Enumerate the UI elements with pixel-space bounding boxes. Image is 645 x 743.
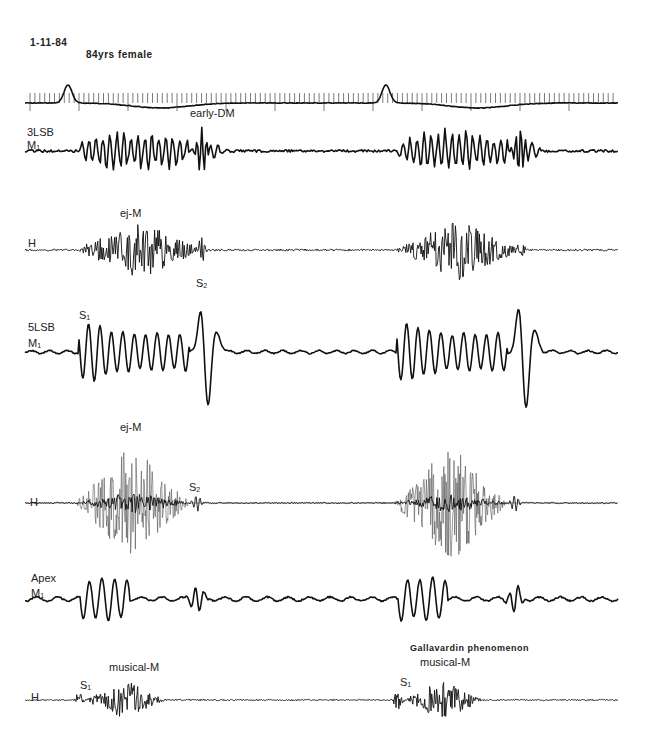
ecg-time-markers [30,93,613,111]
s-subscript: 2 [196,486,200,493]
phonocardiogram-traces [0,0,645,743]
annotation-musical-m-1: musical-M [109,662,159,673]
patient-info: 84yrs female [86,50,153,60]
5lsb-h-trace-baseline [25,494,618,513]
lead-label-3lsb-m: M1 [27,140,40,151]
channel-label-apex: Apex [31,573,56,584]
5lsb-h-trace [25,452,618,556]
lead-label-5lsb-h: H [30,497,38,508]
5lsb-m-trace [25,310,618,407]
annotation-s2-a: S2 [196,278,207,289]
lead-label-apex-m: M1 [31,588,44,599]
s-subscript: 1 [87,684,91,691]
lead-subscript: 1 [40,592,44,599]
annotation-s1-5lsb: S1 [79,310,90,321]
lead-label-5lsb-m: M1 [28,338,41,349]
s-subscript: 2 [203,282,207,289]
annotation-s1-h-2: S1 [400,677,411,688]
s-subscript: 1 [86,314,90,321]
lead-text: M [28,337,37,349]
lead-subscript: 1 [37,342,41,349]
recording-date: 1-11-84 [30,38,67,48]
annotation-s2-b: S2 [189,482,200,493]
lead-label-apex-h: H [31,692,39,703]
annotation-s1-h-1: S1 [80,680,91,691]
3lsb-m-trace [25,127,618,170]
apex-m-trace [25,577,618,621]
lead-label-3lsb-h: H [28,238,36,249]
annotation-musical-m-2: musical-M [420,657,470,668]
channel-label-5lsb: 5LSB [28,322,55,333]
ecg-trace [25,85,618,108]
lead-text: M [31,587,40,599]
annotation-early-dm: early-DM [190,108,235,119]
annotation-ej-m-2: ej-M [120,422,141,433]
annotation-ej-m-1: ej-M [120,208,141,219]
s-subscript: 1 [407,681,411,688]
annotation-gallavardin: Gallavardin phenomenon [410,644,529,653]
channel-label-3lsb: 3LSB [27,127,54,138]
lead-text: M [27,139,36,151]
lead-subscript: 1 [36,144,40,151]
apex-h-trace [25,683,618,717]
3lsb-h-trace [25,223,618,280]
